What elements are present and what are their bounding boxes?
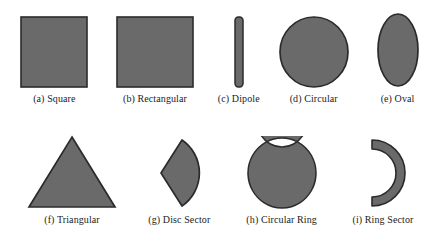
triangular-art [26, 128, 118, 210]
circular-ring-art [246, 128, 318, 210]
shape-cell-rectangular: (b) Rectangular [101, 9, 209, 105]
caption-disc-sector: (g) Disc Sector [148, 214, 210, 226]
shape-cell-triangular: (f) Triangular [14, 128, 130, 226]
filled-triangle-shape [26, 134, 118, 210]
filled-circle-shape [277, 13, 351, 89]
filled-thin-vertical-bar-shape [230, 15, 248, 89]
annulus-ring-shape [246, 136, 318, 210]
caption-square: (a) Square [33, 93, 75, 105]
shape-cell-disc-sector: (g) Disc Sector [131, 128, 227, 226]
filled-square-shape [19, 15, 89, 89]
filled-disc-sector-shape [156, 136, 202, 210]
circular-art [277, 9, 351, 89]
caption-dipole: (c) Dipole [218, 93, 260, 105]
caption-circular-ring: (h) Circular Ring [246, 214, 317, 226]
shapes-row-top: (a) Square (b) Rectangular (c) Dipole [0, 0, 444, 105]
caption-triangular: (f) Triangular [44, 214, 100, 226]
caption-rectangular: (b) Rectangular [123, 93, 187, 105]
shape-cell-oval: (e) Oval [359, 9, 436, 105]
caption-circular: (d) Circular [290, 93, 338, 105]
shape-cell-circular-ring: (h) Circular Ring [229, 128, 335, 226]
dipole-art [230, 9, 248, 89]
filled-ellipse-shape [375, 11, 421, 89]
shapes-row-bottom: (f) Triangular (g) Disc Sector (h) Circu… [0, 118, 444, 226]
ring-sector-art [360, 128, 406, 210]
caption-ring-sector: (i) Ring Sector [353, 214, 414, 226]
shape-cell-square: (a) Square [8, 9, 101, 105]
oval-art [375, 9, 421, 89]
square-art [19, 9, 89, 89]
shape-cell-dipole: (c) Dipole [209, 9, 268, 105]
annulus-sector-arc-shape [360, 136, 406, 210]
disc-sector-art [156, 128, 202, 210]
antenna-patch-shapes-figure: (a) Square (b) Rectangular (c) Dipole [0, 0, 444, 230]
shape-cell-ring-sector: (i) Ring Sector [336, 128, 430, 226]
rectangular-art [115, 9, 195, 89]
shape-cell-circular: (d) Circular [268, 9, 359, 105]
caption-oval: (e) Oval [381, 93, 415, 105]
filled-rectangle-shape [115, 15, 195, 89]
